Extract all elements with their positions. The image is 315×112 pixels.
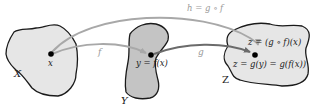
- label-point-z-top: z = (g ∘ f)(x): [247, 37, 301, 47]
- set-z-region: [224, 23, 309, 86]
- label-set-y: Y: [121, 95, 129, 106]
- point-y: [148, 52, 154, 58]
- label-set-z: Z: [222, 74, 229, 85]
- label-point-z-bottom: z = g(y) = g(f(x)): [232, 59, 306, 69]
- label-set-x: X: [13, 68, 22, 79]
- label-point-y: y = f(x): [135, 58, 168, 68]
- label-arrow-f: f: [97, 47, 103, 57]
- set-x-region: [6, 25, 78, 96]
- label-arrow-g: g: [198, 47, 204, 57]
- label-point-x: x: [48, 58, 53, 68]
- label-arrow-h: h = g ∘ f: [187, 3, 225, 13]
- point-z: [252, 52, 258, 58]
- composition-diagram: h = g ∘ f f g x y = f(x) z = (g ∘ f)(x) …: [0, 0, 315, 112]
- point-x: [48, 51, 54, 57]
